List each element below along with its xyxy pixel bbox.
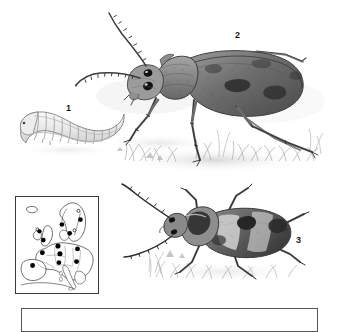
figure-beetle-dorsal	[122, 184, 309, 282]
figure-label-2: 2	[235, 31, 240, 40]
map-svg	[16, 197, 98, 293]
caption-box	[21, 308, 318, 332]
europe-distribution-map	[15, 196, 99, 294]
figure-label-3: 3	[296, 236, 301, 245]
caption-text	[22, 309, 317, 315]
figure-larva	[17, 112, 124, 156]
figure-label-1: 1	[66, 104, 71, 113]
